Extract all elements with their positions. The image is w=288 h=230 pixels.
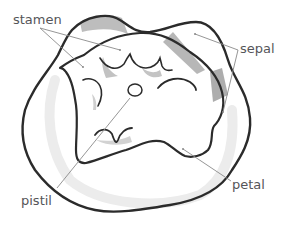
sepal-leader-2	[223, 50, 238, 112]
stamen-shade-right	[142, 68, 162, 77]
pistil-shape	[128, 84, 142, 96]
label-stamen: stamen	[13, 13, 62, 26]
stamen-arc-top	[100, 54, 172, 70]
stamen-arc-left	[83, 79, 101, 106]
label-pistil: pistil	[21, 194, 52, 207]
sepal-leader-dot-2	[222, 111, 224, 113]
flower-diagram: stamen sepal pistil petal	[0, 0, 288, 230]
label-petal: petal	[232, 178, 265, 191]
stamen-leader-dot-1	[119, 49, 121, 51]
petal-leader-dot	[182, 148, 184, 150]
stamen-arc-right	[158, 79, 196, 90]
leader-lines	[40, 28, 238, 188]
petal-outline	[60, 33, 223, 163]
sepal-leader-dot-1	[194, 33, 196, 35]
label-sepal: sepal	[240, 42, 275, 55]
stamen-shade-left2	[92, 94, 96, 110]
sepal-shade-top-left	[80, 15, 128, 34]
stamen-leader-dot-2	[82, 66, 84, 68]
